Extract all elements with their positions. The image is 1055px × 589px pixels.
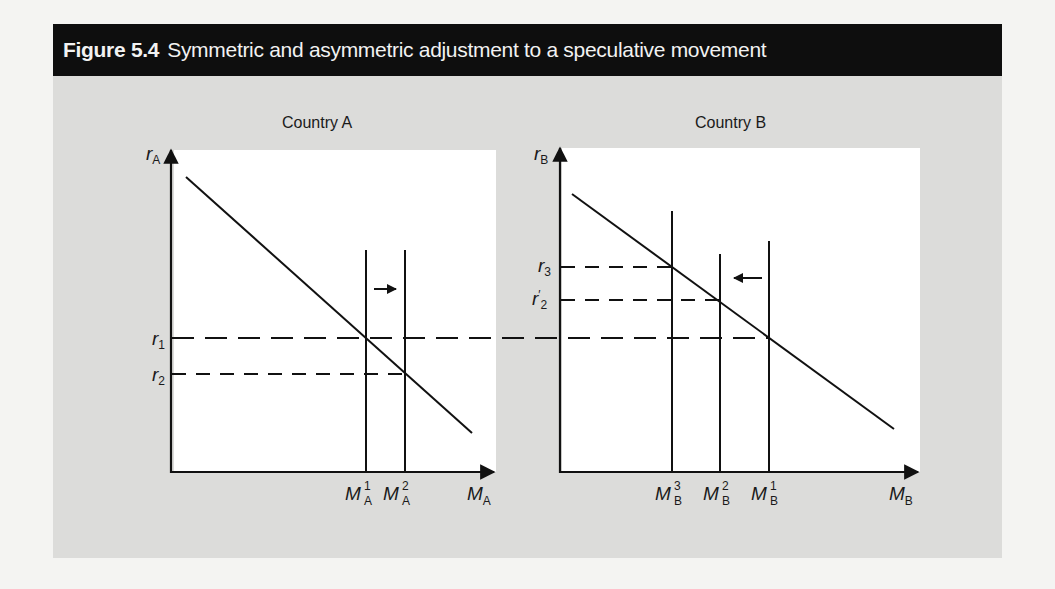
rate-label-r2: r2 [152,364,165,388]
money-label-mb1: M 1 B [751,479,778,508]
panel-title-b: Country B [695,114,766,131]
svg-text:M: M [655,483,671,504]
svg-text:1: 1 [364,479,371,493]
svg-text:A: A [402,494,410,508]
svg-text:3: 3 [674,479,681,493]
rate-label-r3: r3 [538,255,551,279]
rate-label-r1: r1 [152,328,165,352]
money-label-ma1: M 1 A [345,479,372,508]
svg-text:M: M [703,483,719,504]
svg-text:1: 1 [770,479,777,493]
svg-text:B: B [722,494,730,508]
money-market-diagram: Country A rA r1 r2 M 1 A [0,0,1055,589]
rate-label-r2-prime: r′2 [532,288,548,312]
svg-text:2: 2 [722,479,729,493]
x-axis-label-b: MB [889,483,913,508]
svg-text:M: M [383,483,399,504]
money-label-mb2: M 2 B [703,479,730,508]
x-axis-label-a: MA [467,483,491,508]
panel-title-a: Country A [282,114,353,131]
svg-text:M: M [751,483,767,504]
money-label-mb3: M 3 B [655,479,682,508]
panel-country-b: Country B rB r3 r′2 M 3 B [532,114,920,508]
svg-text:M: M [345,483,361,504]
plot-area-b [562,148,920,472]
svg-text:B: B [674,494,682,508]
svg-text:B: B [770,494,778,508]
panel-country-a: Country A rA r1 r2 M 1 A [146,114,496,508]
y-axis-label-a: rA [146,143,160,167]
y-axis-label-b: rB [534,143,548,167]
svg-text:A: A [364,494,372,508]
money-label-ma2: M 2 A [383,479,410,508]
svg-text:2: 2 [402,479,409,493]
